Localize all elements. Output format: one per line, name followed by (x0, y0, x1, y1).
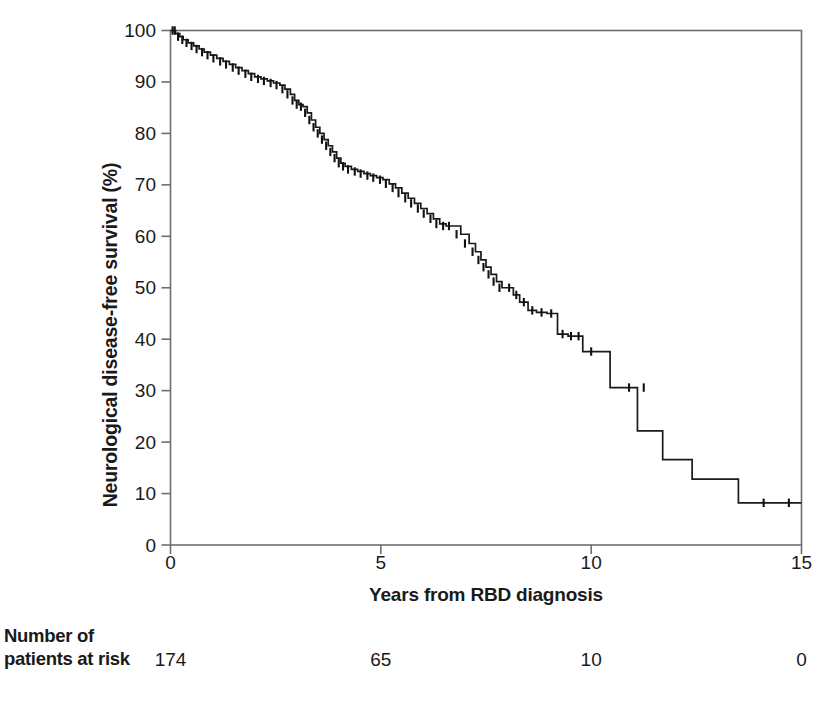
x-tick-label-5: 5 (351, 552, 411, 574)
y-axis-tick-labels: 0102030405060708090100 (108, 0, 156, 701)
y-tick-label-40: 40 (114, 330, 156, 349)
risk-table-title-line2: patients at risk (4, 647, 154, 670)
risk-value-year-10: 10 (556, 649, 626, 671)
risk-value-year-5: 65 (346, 649, 416, 671)
censoring-marks (173, 26, 789, 507)
plot-frame (171, 31, 802, 546)
y-axis-ticks (162, 31, 171, 546)
y-tick-label-90: 90 (114, 72, 156, 91)
x-axis-tick-labels: 051015 (0, 552, 829, 578)
x-tick-label-15: 15 (772, 552, 829, 574)
y-tick-label-30: 30 (114, 381, 156, 400)
y-tick-label-50: 50 (114, 278, 156, 297)
risk-value-year-15: 0 (767, 649, 829, 671)
x-axis-title: Years from RBD diagnosis (170, 584, 802, 606)
survival-chart-figure: Neurological disease-free survival (%) 0… (0, 0, 829, 701)
risk-table: Number of patients at risk 17465100 (0, 624, 829, 686)
y-tick-label-70: 70 (114, 175, 156, 194)
survival-curve (171, 31, 802, 503)
risk-table-title: Number of patients at risk (4, 624, 154, 670)
plot-frame-rect (171, 31, 802, 546)
y-tick-label-20: 20 (114, 433, 156, 452)
risk-value-year-0: 174 (136, 649, 206, 671)
x-tick-label-0: 0 (141, 552, 201, 574)
risk-table-title-line1: Number of (4, 624, 154, 647)
y-tick-label-100: 100 (114, 21, 156, 40)
y-tick-label-10: 10 (114, 484, 156, 503)
y-tick-label-60: 60 (114, 227, 156, 246)
y-tick-label-80: 80 (114, 124, 156, 143)
x-tick-label-10: 10 (561, 552, 621, 574)
